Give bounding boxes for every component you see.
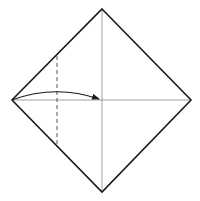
origami-diagram [0,0,200,201]
fold-arrow-icon [12,92,99,100]
paper-outline [12,9,191,192]
